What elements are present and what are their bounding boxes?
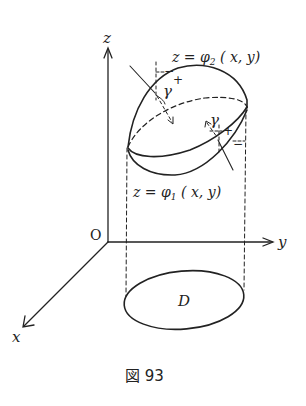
lower-surface-curve	[128, 110, 247, 175]
region-d-label: D	[177, 292, 190, 310]
upper-normal-line	[130, 66, 155, 93]
gamma-upper-label: γ	[163, 82, 172, 100]
projection-line-left	[126, 148, 127, 296]
lower-minus-sign: −	[233, 137, 243, 151]
gamma-lower-label: γ	[210, 111, 219, 129]
origin-label: O	[90, 227, 101, 243]
figure-caption: 図 93	[125, 367, 164, 385]
upper-surface-equation: z = φ2 ( x, y)	[171, 49, 260, 67]
y-axis-label: y	[277, 233, 287, 251]
projection-line-right	[244, 108, 246, 290]
upper-normal-arrow-icon	[168, 117, 173, 124]
lower-plus-sign: +	[223, 124, 233, 138]
x-axis-label: x	[12, 328, 21, 346]
lower-surface-equation: z = φ1 ( x, y)	[132, 184, 221, 202]
upper-plus-sign: +	[173, 73, 183, 87]
x-axis	[24, 242, 108, 326]
diagram-figure: z y x O z = φ2 ( x, y) z = φ1 ( x, y) γ …	[0, 0, 306, 406]
z-axis-label: z	[102, 29, 111, 47]
